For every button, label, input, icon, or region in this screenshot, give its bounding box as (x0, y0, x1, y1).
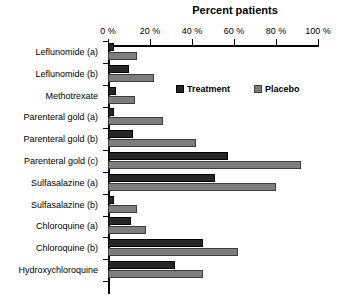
legend-swatch-treatment-icon (176, 85, 184, 93)
x-axis-tick (150, 39, 151, 46)
y-axis-tick (103, 41, 109, 42)
x-axis-tick-label: 100 % (305, 26, 331, 36)
y-axis-tick (103, 237, 109, 238)
x-axis-tick (192, 39, 193, 46)
bar-treatment (108, 43, 114, 51)
bar-treatment (108, 130, 133, 138)
bar-placebo (108, 183, 276, 191)
bar-placebo (108, 74, 154, 82)
bar-placebo (108, 117, 163, 125)
bar-placebo (108, 161, 301, 169)
legend-swatch-placebo-icon (254, 85, 262, 93)
bar-placebo (108, 205, 137, 213)
bar-treatment (108, 239, 203, 247)
y-axis-category-label: Methotrexate (45, 91, 98, 101)
y-axis-category-label: Chloroquine (b) (36, 243, 98, 253)
x-axis-tick-label: 20 % (140, 26, 161, 36)
bar-treatment (108, 261, 175, 269)
x-axis-line (108, 45, 319, 47)
bar-placebo (108, 248, 238, 256)
y-axis-tick (103, 150, 109, 151)
x-axis-tick-label: 40 % (182, 26, 203, 36)
x-axis-tick-label: 0 % (100, 26, 116, 36)
y-axis-category-label: Parenteral gold (a) (23, 112, 98, 122)
y-axis-tick (103, 281, 109, 282)
y-axis-category-label: Chloroquine (a) (36, 221, 98, 231)
bar-treatment (108, 87, 116, 95)
bar-treatment (108, 152, 228, 160)
bar-treatment (108, 196, 114, 204)
x-axis-tick-label: 80 % (266, 26, 287, 36)
bar-placebo (108, 270, 203, 278)
y-axis-line (108, 45, 110, 294)
y-axis-category-label: Parenteral gold (b) (23, 134, 98, 144)
y-axis-category-label: Sulfasalazine (b) (31, 200, 98, 210)
bar-chart: Percent patients 0 %20 %40 %60 %80 %100 … (0, 0, 349, 302)
bar-treatment (108, 65, 129, 73)
bar-placebo (108, 139, 196, 147)
y-axis-tick (103, 128, 109, 129)
x-axis-tick (234, 39, 235, 46)
bar-treatment (108, 108, 114, 116)
x-axis-tick (276, 39, 277, 46)
x-axis-tick (318, 39, 319, 46)
bar-placebo (108, 52, 137, 60)
y-axis-category-label: Sulfasalazine (a) (31, 178, 98, 188)
x-axis-tick-label: 60 % (224, 26, 245, 36)
bar-treatment (108, 174, 215, 182)
y-axis-category-label: Parenteral gold (c) (24, 156, 98, 166)
y-axis-category-label: Hydroxychloroquine (18, 265, 98, 275)
bar-treatment (108, 217, 131, 225)
legend-label-treatment: Treatment (187, 83, 230, 95)
chart-title: Percent patients (125, 4, 345, 16)
y-axis-category-label: Leflunomide (b) (35, 69, 98, 79)
bar-placebo (108, 226, 146, 234)
y-axis-tick (103, 259, 109, 260)
bar-placebo (108, 96, 135, 104)
legend-label-placebo: Placebo (265, 83, 300, 95)
y-axis-category-label: Leflunomide (a) (35, 47, 98, 57)
